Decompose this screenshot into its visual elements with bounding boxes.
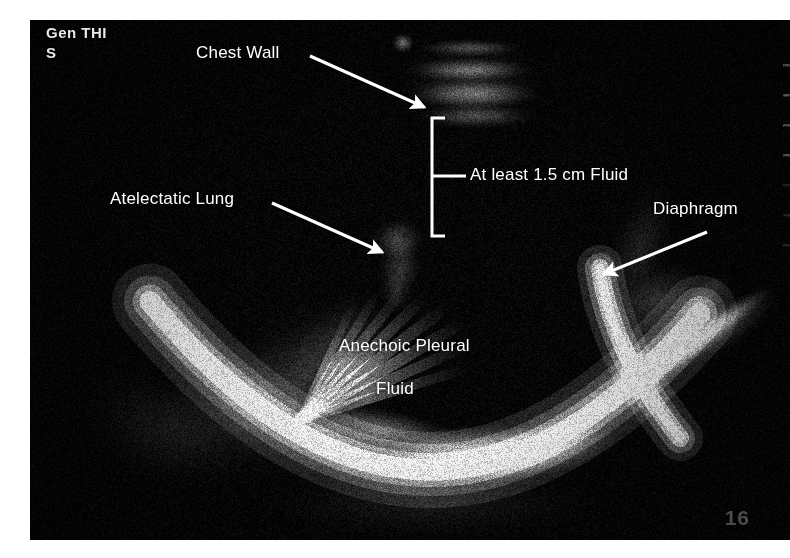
osd-mode-label: Gen THI xyxy=(46,24,107,41)
fluid-measurement-label: At least 1.5 cm Fluid xyxy=(470,164,628,185)
osd-depth-label: 16 xyxy=(725,506,750,530)
anechoic-label-line-2: Fluid xyxy=(0,378,790,399)
anechoic-pleural-fluid-label: Anechoic Pleural Fluid xyxy=(0,314,790,442)
atelectatic-lung-label: Atelectatic Lung xyxy=(110,188,234,209)
osd-sector-label: S xyxy=(46,44,57,61)
ultrasound-scan-canvas xyxy=(30,20,790,540)
chest-wall-label: Chest Wall xyxy=(196,42,280,63)
figure-page: Gen THI S 16 Chest Wall Atelectatic Lung… xyxy=(0,0,790,558)
ultrasound-image-frame xyxy=(30,20,790,540)
anechoic-label-line-1: Anechoic Pleural xyxy=(339,336,470,355)
diaphragm-label: Diaphragm xyxy=(653,198,738,219)
